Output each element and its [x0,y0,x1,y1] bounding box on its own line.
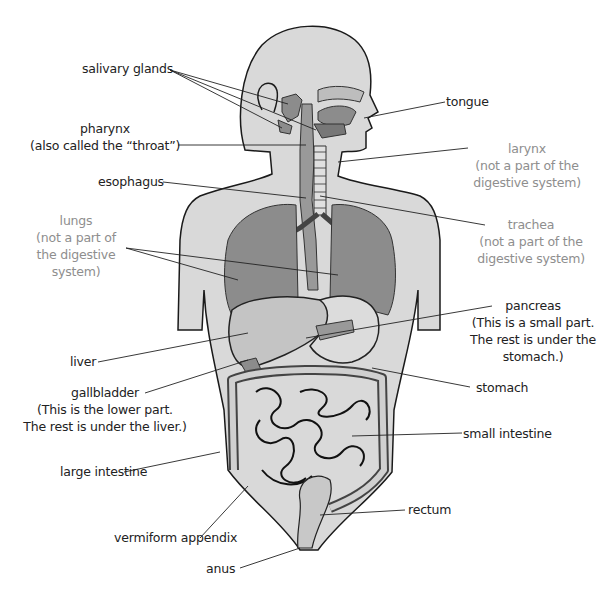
label-vermiform-appendix: vermiform appendix [114,529,237,546]
label-pharynx-line2: (also called the “throat”) [30,137,180,154]
label-esophagus: esophagus [98,173,164,190]
label-gallbladder-line2: (This is the lower part. [20,401,190,418]
tongue-organ [318,106,356,126]
label-larynx: larynx (not a part of the digestive syst… [452,140,602,191]
label-pharynx-line1: pharynx [30,120,180,137]
label-lungs-line1: lungs [20,212,132,229]
label-gallbladder-line3: The rest is under the liver.) [20,418,190,435]
label-larynx-line3: digestive system) [452,174,602,191]
label-trachea-line1: trachea [456,216,606,233]
label-lungs-line4: system) [20,263,132,280]
label-large-intestine: large intestine [60,463,147,480]
label-stomach: stomach [476,379,528,396]
label-small-intestine: small intestine [463,425,552,442]
label-trachea: trachea (not a part of the digestive sys… [456,216,606,267]
label-gallbladder-line1: gallbladder [20,384,190,401]
label-larynx-line2: (not a part of the [452,157,602,174]
label-pancreas-line4: stomach.) [458,348,608,365]
label-rectum: rectum [408,501,451,518]
label-pancreas: pancreas (This is a small part. The rest… [458,297,608,365]
label-trachea-line3: digestive system) [456,250,606,267]
trachea-organ [314,146,326,215]
label-anus: anus [206,560,235,577]
label-salivary-glands: salivary glands [82,60,173,77]
label-pancreas-line2: (This is a small part. [458,314,608,331]
label-lungs-line2: (not a part of [20,229,132,246]
label-pancreas-line1: pancreas [458,297,608,314]
label-tongue: tongue [446,93,489,110]
label-lungs: lungs (not a part of the digestive syste… [20,212,132,280]
label-trachea-line2: (not a part of the [456,233,606,250]
label-pharynx: pharynx (also called the “throat”) [30,120,180,154]
label-liver: liver [70,353,96,370]
label-pancreas-line3: The rest is under the [458,331,608,348]
label-lungs-line3: the digestive [20,246,132,263]
label-gallbladder: gallbladder (This is the lower part. The… [20,384,190,435]
label-larynx-line1: larynx [452,140,602,157]
digestive-system-diagram: salivary glands tongue pharynx (also cal… [0,0,608,596]
